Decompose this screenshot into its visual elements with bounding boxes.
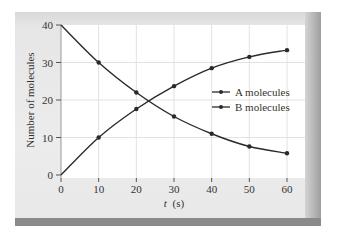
- legend-label-b: B molecules: [235, 101, 290, 113]
- data-point: [209, 66, 213, 70]
- x-tick-label: 50: [244, 183, 256, 195]
- data-point: [96, 60, 100, 64]
- x-tick-label: 60: [282, 183, 294, 195]
- y-tick-label: 0: [48, 169, 54, 181]
- x-tick-label: 20: [131, 183, 143, 195]
- data-point: [172, 84, 176, 88]
- data-point: [134, 107, 138, 111]
- data-point: [285, 151, 289, 155]
- chart-canvas: 010203040 0102030405060 Number of molecu…: [0, 0, 338, 238]
- legend-label-a: A molecules: [235, 86, 290, 98]
- x-axis-title-var: t: [164, 197, 168, 209]
- y-tick-label: 30: [42, 57, 54, 69]
- y-tick-label: 10: [42, 132, 54, 144]
- y-axis-title: Number of molecules: [24, 52, 36, 147]
- x-tick-label: 10: [93, 183, 105, 195]
- y-tick-label: 20: [42, 94, 54, 106]
- x-axis-title: t (s): [164, 197, 185, 210]
- x-tick-label: 30: [169, 183, 181, 195]
- data-point: [285, 48, 289, 52]
- data-point: [247, 55, 251, 59]
- data-point: [134, 90, 138, 94]
- y-ticks: 010203040: [42, 19, 61, 181]
- y-tick-label: 40: [42, 19, 54, 31]
- data-point: [247, 144, 251, 148]
- x-axis-title-unit: (s): [173, 197, 185, 210]
- data-point: [209, 132, 213, 136]
- x-tick-label: 40: [206, 183, 218, 195]
- data-point: [172, 114, 176, 118]
- x-tick-label: 0: [58, 183, 64, 195]
- x-ticks: 0102030405060: [58, 178, 293, 195]
- legend-marker-icon: [219, 90, 223, 94]
- data-point: [96, 135, 100, 139]
- legend-marker-icon: [219, 105, 223, 109]
